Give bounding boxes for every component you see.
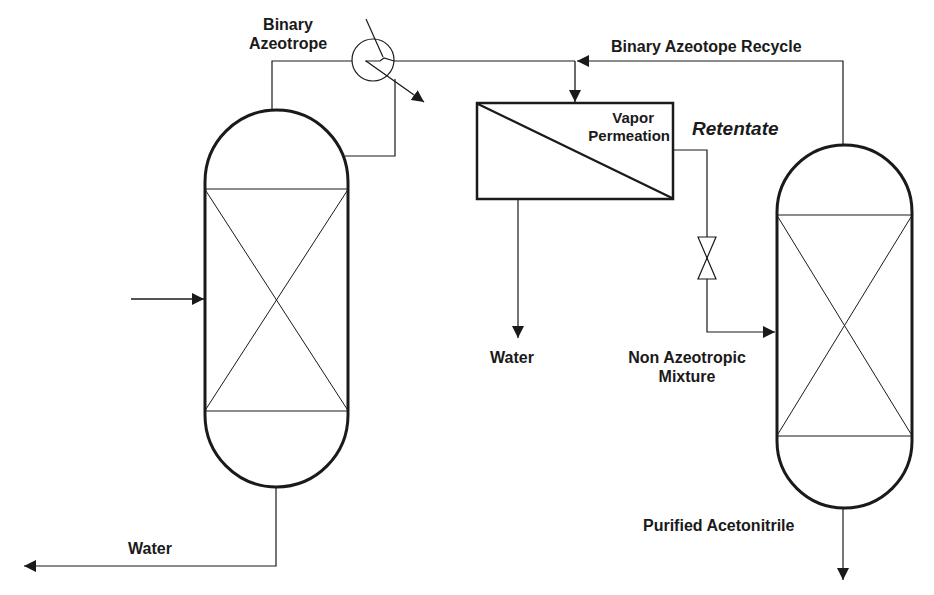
label-retentate: Retentate	[692, 119, 779, 138]
label-line: Permeation	[570, 127, 670, 145]
process-flow-diagram	[0, 0, 934, 595]
label-line: Mixture	[612, 367, 762, 386]
label-line: Binary	[248, 15, 328, 34]
label-line: Vapor	[570, 109, 670, 127]
reflux-line	[345, 79, 395, 156]
label-vapor-permeation: Vapor Permeation	[570, 109, 670, 145]
label-purified-acetonitrile: Purified Acetonitrile	[643, 516, 794, 535]
valve-icon	[698, 237, 716, 279]
label-water-bottoms: Water	[128, 539, 172, 558]
overhead-vapor-line	[272, 61, 352, 110]
distillation-column-2	[777, 145, 912, 508]
label-water-permeate: Water	[490, 348, 534, 367]
label-binary-azeotrope: Binary Azeotrope	[248, 15, 328, 53]
label-non-azeotropic-mixture: Non Azeotropic Mixture	[612, 348, 762, 386]
label-line: Non Azeotropic	[612, 348, 762, 367]
retentate-line	[673, 150, 775, 332]
label-recycle: Binary Azeotope Recycle	[611, 37, 802, 56]
label-line: Azeotrope	[248, 34, 328, 53]
distillation-column-1	[205, 110, 348, 487]
